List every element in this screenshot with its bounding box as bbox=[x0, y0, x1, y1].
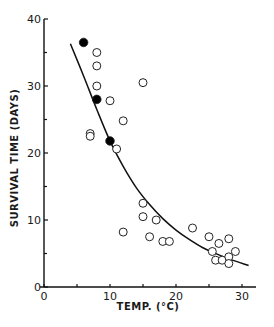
open-data-point bbox=[139, 79, 147, 87]
y-axis-title: SURVIVAL TIME (DAYS) bbox=[9, 89, 20, 228]
y-tick-label: 10 bbox=[27, 214, 41, 227]
x-tick-label: 10 bbox=[103, 290, 117, 303]
open-data-point bbox=[119, 117, 127, 125]
ticks bbox=[44, 19, 242, 287]
axes bbox=[40, 19, 256, 287]
x-tick-label: 0 bbox=[41, 290, 48, 303]
scatter-chart: 0102030400102030 TEMP. (°C) SURVIVAL TIM… bbox=[0, 0, 274, 327]
open-data-point bbox=[165, 237, 173, 245]
open-data-point bbox=[119, 228, 127, 236]
open-data-point bbox=[205, 233, 213, 241]
open-data-point bbox=[146, 233, 154, 241]
open-data-point bbox=[106, 97, 114, 105]
open-data-point bbox=[189, 224, 197, 232]
filled-data-point bbox=[106, 137, 115, 146]
open-data-point bbox=[152, 216, 160, 224]
open-data-point bbox=[231, 247, 239, 255]
open-data-point bbox=[225, 260, 233, 268]
data-points bbox=[79, 38, 239, 267]
filled-data-point bbox=[79, 38, 88, 47]
y-tick-label: 30 bbox=[27, 80, 41, 93]
x-tick-label: 30 bbox=[235, 290, 249, 303]
y-tick-label: 20 bbox=[27, 147, 41, 160]
open-data-point bbox=[225, 235, 233, 243]
open-data-point bbox=[139, 199, 147, 207]
filled-data-point bbox=[93, 95, 102, 104]
open-data-point bbox=[93, 62, 101, 70]
y-tick-label: 40 bbox=[27, 13, 41, 26]
open-data-point bbox=[208, 247, 216, 255]
open-data-point bbox=[215, 239, 223, 247]
open-data-point bbox=[93, 82, 101, 90]
open-data-point bbox=[93, 49, 101, 57]
x-axis-title: TEMP. (°C) bbox=[117, 301, 180, 312]
open-data-point bbox=[139, 213, 147, 221]
open-data-point bbox=[113, 145, 121, 153]
open-data-point bbox=[86, 132, 94, 140]
fitted-curve bbox=[70, 44, 248, 266]
